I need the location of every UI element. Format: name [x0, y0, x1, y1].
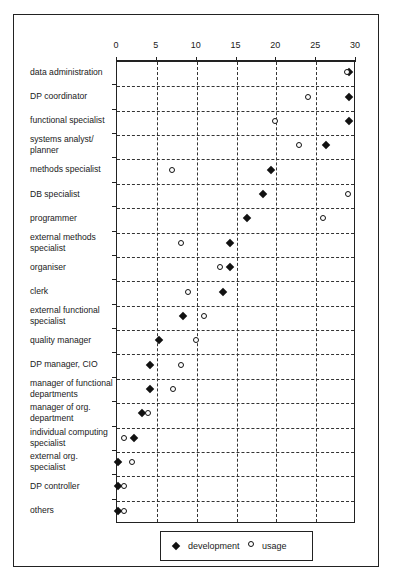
horizontal-gridline [117, 257, 354, 258]
category-label-line: clerk [30, 286, 114, 297]
y-tick-mark [112, 279, 117, 280]
horizontal-gridline [117, 135, 354, 136]
usage-point [145, 410, 151, 416]
plot-area [116, 60, 355, 523]
y-tick-mark [112, 157, 117, 158]
category-label: external functionalspecialist [30, 305, 114, 327]
category-label: manager of functionaldepartments [30, 378, 114, 400]
usage-point [169, 167, 175, 173]
y-tick-mark [112, 206, 117, 207]
category-label-line: manager of functional [30, 378, 114, 389]
category-label: DP manager, CIO [30, 359, 114, 370]
horizontal-gridline [117, 159, 354, 160]
category-label: programmer [30, 213, 114, 224]
category-label-line: methods specialist [30, 164, 114, 175]
horizontal-gridline [117, 281, 354, 282]
category-label-line: functional specialist [30, 115, 114, 126]
category-label: systems analyst/planner [30, 134, 114, 156]
vertical-gridline [237, 62, 238, 522]
category-label-line: data administration [30, 67, 114, 78]
category-label-line: specialist [30, 438, 114, 449]
y-tick-mark [112, 84, 117, 85]
category-label: data administration [30, 67, 114, 78]
vertical-gridline [316, 62, 317, 522]
horizontal-gridline [117, 354, 354, 355]
x-tick-mark [116, 57, 117, 62]
category-label-line: DP manager, CIO [30, 359, 114, 370]
usage-point [193, 337, 199, 343]
legend-development-label: development [188, 541, 240, 551]
x-tick-mark [315, 57, 316, 62]
y-tick-mark [112, 328, 117, 329]
x-tick-mark [275, 57, 276, 62]
legend: development usage [160, 531, 313, 561]
horizontal-gridline [117, 86, 354, 87]
category-label-line: external org. [30, 451, 114, 462]
category-label-line: DP controller [30, 481, 114, 492]
horizontal-gridline [117, 184, 354, 185]
x-tick-label: 30 [350, 40, 360, 50]
category-label: DP coordinator [30, 91, 114, 102]
category-label: DP controller [30, 481, 114, 492]
x-tick-label: 10 [191, 40, 201, 50]
category-label: methods specialist [30, 164, 114, 175]
usage-point [296, 142, 302, 148]
horizontal-gridline [117, 452, 354, 453]
usage-point [121, 508, 127, 514]
usage-point [272, 118, 278, 124]
x-tick-label: 15 [230, 40, 240, 50]
horizontal-gridline [117, 111, 354, 112]
x-tick-mark [156, 57, 157, 62]
x-tick-mark [355, 57, 356, 62]
category-label-line: planner [30, 145, 114, 156]
vertical-gridline [276, 62, 277, 522]
category-label-line: systems analyst/ [30, 134, 114, 145]
category-label-line: specialist [30, 316, 114, 327]
category-label-line: departments [30, 389, 114, 400]
category-label: external methodsspecialist [30, 232, 114, 254]
category-label-line: specialist [30, 243, 114, 254]
usage-point [305, 94, 311, 100]
x-tick-label: 5 [153, 40, 158, 50]
category-label: quality manager [30, 335, 114, 346]
x-tick-mark [236, 57, 237, 62]
category-label-line: external functional [30, 305, 114, 316]
x-tick-label: 25 [310, 40, 320, 50]
category-label-line: department [30, 413, 114, 424]
legend-usage-label: usage [262, 541, 287, 551]
usage-circle-icon [248, 541, 254, 547]
category-label-line: specialist [30, 462, 114, 473]
usage-point [344, 69, 350, 75]
y-tick-mark [112, 474, 117, 475]
category-label: DB specialist [30, 189, 114, 200]
vertical-gridline [197, 62, 198, 522]
horizontal-gridline [117, 476, 354, 477]
usage-point [345, 191, 351, 197]
category-label-line: quality manager [30, 335, 114, 346]
horizontal-gridline [117, 403, 354, 404]
category-label: functional specialist [30, 115, 114, 126]
horizontal-gridline [117, 501, 354, 502]
category-label: others [30, 505, 114, 516]
x-tick-label: 0 [113, 40, 118, 50]
horizontal-gridline [117, 208, 354, 209]
category-label-line: organiser [30, 262, 114, 273]
y-tick-mark [112, 109, 117, 110]
category-label-line: others [30, 505, 114, 516]
vertical-gridline [157, 62, 158, 522]
usage-point [170, 386, 176, 392]
y-tick-mark [112, 255, 117, 256]
usage-point [121, 435, 127, 441]
x-tick-mark [196, 57, 197, 62]
category-label-line: external methods [30, 232, 114, 243]
y-tick-mark [112, 352, 117, 353]
category-label-line: programmer [30, 213, 114, 224]
usage-point [121, 483, 127, 489]
development-diamond-icon [172, 542, 180, 550]
category-label: individual computingspecialist [30, 427, 114, 449]
horizontal-gridline [117, 379, 354, 380]
horizontal-gridline [117, 428, 354, 429]
y-tick-mark [112, 499, 117, 500]
horizontal-gridline [117, 306, 354, 307]
category-label-line: individual computing [30, 427, 114, 438]
